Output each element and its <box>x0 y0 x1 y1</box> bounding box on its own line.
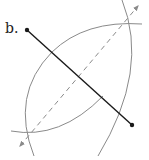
segment-ab <box>27 30 132 125</box>
bisector-diagram <box>0 0 149 160</box>
perpendicular-bisector <box>20 6 138 146</box>
endpoint-b-dot <box>130 123 134 127</box>
arc-from-endpoint-b <box>25 52 52 156</box>
arc-from-endpoint-b-upper <box>52 24 142 52</box>
endpoint-a-dot <box>25 28 29 32</box>
